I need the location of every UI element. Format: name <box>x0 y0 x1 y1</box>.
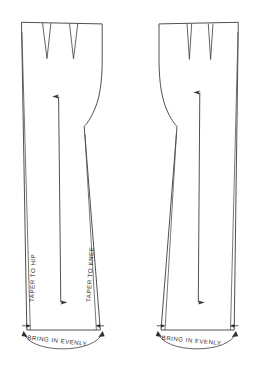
taper-to-hip-label: TAPER TO HIP <box>28 254 37 302</box>
right-dart-2 <box>208 24 213 60</box>
left-hem-arrow-right <box>96 324 104 328</box>
left-pattern-piece: TAPER TO HIP TAPER TO KNEE BRING IN EVEN… <box>22 22 105 349</box>
right-hem-arrow-left <box>157 324 165 328</box>
left-arc-arrowhead-end <box>99 331 105 337</box>
right-inseam-taper-line <box>165 134 176 330</box>
trouser-pattern-drawing: TAPER TO HIP TAPER TO KNEE BRING IN EVEN… <box>0 0 259 381</box>
right-pattern-piece: BRING IN EVENLY <box>156 22 239 349</box>
pattern-diagram-canvas: TAPER TO HIP TAPER TO KNEE BRING IN EVEN… <box>0 0 259 381</box>
right-hem-arrow-right <box>230 324 238 328</box>
left-dart-1 <box>43 23 51 59</box>
right-dart-1 <box>187 24 192 60</box>
right-arc-arrowhead-end <box>232 331 238 337</box>
left-dart-2 <box>70 23 78 58</box>
right-grainline-arrow <box>198 93 200 303</box>
left-grainline-arrow <box>59 97 61 303</box>
bring-in-evenly-label-left: BRING IN EVENLY <box>27 334 87 347</box>
right-side-taper-line <box>231 32 239 330</box>
